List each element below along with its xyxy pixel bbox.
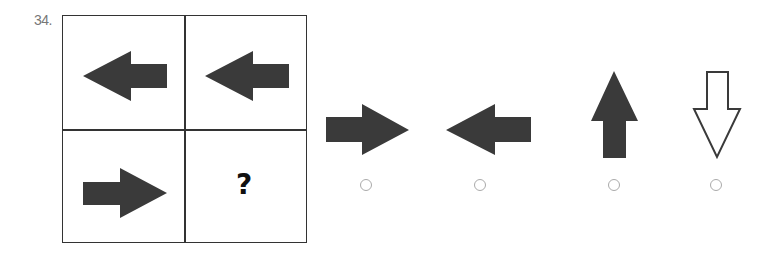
matrix-cell-top-right-arrow-left-icon <box>205 51 289 101</box>
option-2-radio[interactable] <box>474 179 486 191</box>
option-4-radio[interactable] <box>710 179 722 191</box>
option-1-radio[interactable] <box>360 179 372 191</box>
option-3-arrow-up-icon <box>591 71 638 158</box>
option-1-arrow-right-icon <box>326 104 409 155</box>
matrix-cell-bottom-left-arrow-right-icon <box>83 168 167 218</box>
matrix-cell-top-left-arrow-left-icon <box>83 51 167 101</box>
option-3-radio[interactable] <box>608 179 620 191</box>
figures-layer <box>0 0 760 254</box>
option-2-arrow-left-icon <box>446 104 531 155</box>
matrix-cell-bottom-right-question-mark: ? <box>236 168 252 201</box>
option-4-arrow-down-outline-icon <box>694 72 740 157</box>
